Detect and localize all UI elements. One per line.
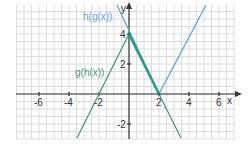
- y-tick-label: 4: [120, 29, 126, 40]
- x-tick-label: 6: [216, 97, 222, 108]
- x-axis-arrow-icon: [235, 91, 242, 97]
- y-tick-label: 2: [120, 59, 126, 70]
- plot-area: h(g(x)) g(h(x)) y x -6 -4 -2 2 4 6 4 2 -…: [0, 0, 252, 151]
- label-g-of-h: g(h(x)): [75, 67, 104, 78]
- function-graph: h(g(x)) g(h(x)) y x -6 -4 -2 2 4 6 4 2 -…: [0, 0, 252, 151]
- point-2-0: [157, 92, 160, 95]
- x-tick-label: -6: [34, 97, 43, 108]
- x-tick-label: -4: [64, 97, 73, 108]
- y-tick-label: -2: [117, 119, 126, 130]
- x-tick-label: 4: [186, 97, 192, 108]
- point-0-4: [127, 32, 130, 35]
- x-axis-label: x: [227, 95, 232, 106]
- y-axis-label: y: [121, 3, 126, 14]
- y-axis-arrow-icon: [126, 2, 132, 9]
- x-tick-label: 2: [156, 97, 162, 108]
- label-h-of-g: h(g(x)): [83, 11, 112, 22]
- axes: [16, 2, 242, 139]
- x-tick-label: -2: [94, 97, 103, 108]
